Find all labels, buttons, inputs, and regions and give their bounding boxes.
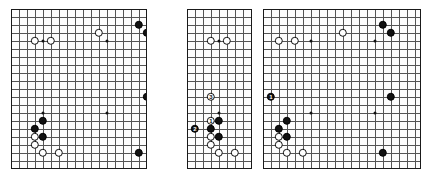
board-grid [187, 9, 252, 169]
star-point [374, 112, 377, 115]
diagram-1[interactable] [11, 9, 147, 169]
star-point [374, 40, 377, 43]
star-point [218, 112, 221, 115]
diagram-2[interactable]: 312 [187, 9, 252, 169]
go-diagram-sheet: 3121 [0, 0, 428, 177]
star-point [42, 40, 45, 43]
diagram-3[interactable]: 1 [263, 9, 421, 169]
star-point [42, 112, 45, 115]
black-stone[interactable] [143, 29, 147, 37]
star-point [106, 40, 109, 43]
star-point [310, 40, 313, 43]
star-point [218, 40, 221, 43]
black-stone[interactable] [143, 93, 147, 101]
star-point [106, 112, 109, 115]
star-point [310, 112, 313, 115]
